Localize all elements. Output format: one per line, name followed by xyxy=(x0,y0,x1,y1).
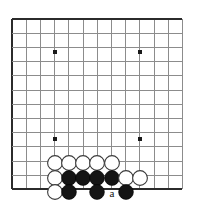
marker-layer: a xyxy=(110,187,115,199)
black-stone[interactable] xyxy=(76,171,91,186)
white-stone[interactable] xyxy=(48,171,63,186)
star-point-upper-right xyxy=(138,50,142,54)
black-stone[interactable] xyxy=(62,171,77,186)
white-stone[interactable] xyxy=(76,156,91,171)
black-stone[interactable] xyxy=(90,171,105,186)
go-diagram: a xyxy=(0,0,207,208)
white-stone[interactable] xyxy=(62,156,77,171)
white-stone[interactable] xyxy=(133,171,148,186)
star-point-lower-left xyxy=(53,137,57,141)
white-stone[interactable] xyxy=(119,171,134,186)
black-stone[interactable] xyxy=(62,185,77,200)
stone-layer[interactable] xyxy=(48,156,148,200)
black-stone[interactable] xyxy=(90,185,105,200)
black-stone[interactable] xyxy=(105,171,120,186)
white-stone[interactable] xyxy=(48,185,63,200)
goban-svg[interactable]: a xyxy=(0,0,207,208)
white-stone[interactable] xyxy=(90,156,105,171)
move-marker-label: a xyxy=(110,187,115,199)
white-stone[interactable] xyxy=(48,156,63,171)
white-stone[interactable] xyxy=(105,156,120,171)
star-point-upper-left xyxy=(53,50,57,54)
black-stone[interactable] xyxy=(119,185,134,200)
star-point-lower-right xyxy=(138,137,142,141)
